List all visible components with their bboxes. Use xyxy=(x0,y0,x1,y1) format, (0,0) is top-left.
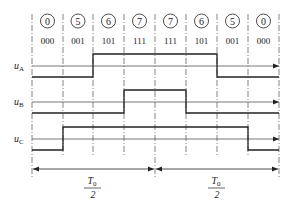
state-digit: 5 xyxy=(230,16,235,27)
period-label-2: T0 2 xyxy=(208,175,225,200)
state-code: 000 xyxy=(41,36,55,46)
state-6: 5 001 xyxy=(226,14,240,46)
state-5: 6 101 xyxy=(195,14,209,46)
signal-label: uB xyxy=(14,96,24,109)
svg-text:T0: T0 xyxy=(87,175,97,188)
state-code: 101 xyxy=(102,36,116,46)
period-label-1: T0 2 xyxy=(84,175,101,200)
signal-label: uC xyxy=(14,133,24,146)
state-digit: 7 xyxy=(137,16,142,27)
state-digit: 0 xyxy=(261,16,266,27)
waveform xyxy=(32,54,279,77)
state-digit: 7 xyxy=(168,16,173,27)
state-code: 001 xyxy=(226,36,240,46)
state-7: 0 000 xyxy=(257,14,271,46)
state-code: 111 xyxy=(164,36,177,46)
state-0: 0 000 xyxy=(41,14,55,46)
period-dimensions: T0 2 T0 2 xyxy=(33,169,278,200)
state-4: 7 111 xyxy=(164,14,178,46)
signal-ua: uA xyxy=(14,54,279,77)
state-3: 7 111 xyxy=(133,14,147,46)
svg-text:2: 2 xyxy=(91,189,96,200)
state-digit: 6 xyxy=(106,16,111,27)
state-code: 000 xyxy=(257,36,271,46)
state-code: 101 xyxy=(195,36,209,46)
waveform xyxy=(32,127,279,150)
state-2: 6 101 xyxy=(102,14,116,46)
waveform xyxy=(32,90,279,113)
signal-uc: uC xyxy=(14,127,279,150)
svg-text:2: 2 xyxy=(215,189,220,200)
state-1: 5 001 xyxy=(71,14,85,46)
state-row: 0 000 5 001 6 101 7 111 7 111 6 101 xyxy=(41,14,271,46)
state-digit: 5 xyxy=(76,16,81,27)
svg-text:T0: T0 xyxy=(211,175,221,188)
svpwm-timing-diagram: 0 000 5 001 6 101 7 111 7 111 6 101 xyxy=(0,0,296,205)
state-digit: 6 xyxy=(199,16,204,27)
signal-label: uA xyxy=(14,60,24,73)
state-digit: 0 xyxy=(45,16,50,27)
state-code: 111 xyxy=(133,36,146,46)
state-code: 001 xyxy=(71,36,85,46)
signal-ub: uB xyxy=(14,90,279,113)
guide-lines xyxy=(32,14,279,178)
